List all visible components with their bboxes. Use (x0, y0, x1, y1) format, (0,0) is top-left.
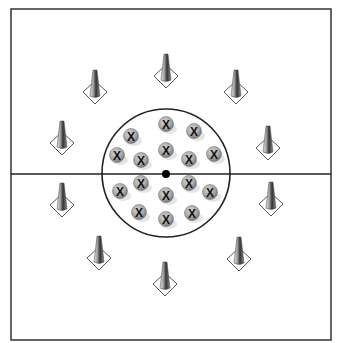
player-label: X (185, 153, 193, 167)
player-label: X (185, 177, 193, 191)
player-label: X (206, 186, 214, 200)
player-label: X (137, 177, 145, 191)
center-spot (162, 170, 170, 178)
player-label: X (162, 189, 170, 203)
player-label: X (137, 154, 145, 168)
player-label: X (210, 148, 218, 162)
drill-diagram: XXXXXXXXXXXXXXXX (0, 0, 344, 343)
player-label: X (188, 207, 196, 221)
player-label: X (190, 125, 198, 139)
player-label: X (127, 130, 135, 144)
player-label: X (116, 185, 124, 199)
player-label: X (162, 118, 170, 132)
player-label: X (135, 206, 143, 220)
player-label: X (113, 149, 121, 163)
player-label: X (162, 213, 170, 227)
player-label: X (162, 144, 170, 158)
